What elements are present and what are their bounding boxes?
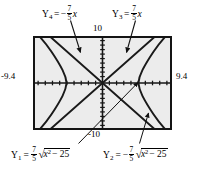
y4-denominator: 5 [67,13,73,22]
graph-plot [35,38,170,128]
y4-fraction: 75 [67,5,73,21]
y3-lhs: Y3 [112,9,122,19]
y4-numerator: 7 [67,5,73,13]
y3-subscript: 3 [119,12,123,20]
y4-subscript: 4 [49,12,53,20]
equation-label-y2: Y2=−75√x2− 25 [103,146,168,162]
y2-equals: = [115,150,120,160]
equation-label-y4: Y4=−75x [42,5,77,21]
y1-radical: √x2− 25 [37,149,70,160]
y2-sign: − [123,150,128,160]
y1-lhs: Y1 [11,150,21,160]
xmin-label: -9.4 [1,72,15,81]
y2-denominator: 5 [129,154,135,163]
hyperbola-figure: 10 -10 -9.4 9.4 Y4=−75x Y3=75x Y1=75√x2−… [0,0,202,173]
y1-radicand: x2− 25 [44,148,71,159]
y1-numerator: 7 [31,146,37,154]
y3-variable: x [137,9,141,19]
calculator-screen [33,36,172,130]
xmax-label: 9.4 [176,72,187,81]
y4-sign: − [61,9,66,19]
y2-subscript: 2 [110,153,114,161]
hyperbola-right-upper [138,38,164,83]
y4-equals: = [54,9,59,19]
hyperbola-left-upper [40,38,66,83]
y4-variable: x [73,9,77,19]
y4-lhs: Y4 [42,9,52,19]
y1-equals: = [23,150,28,160]
y2-radical: √x2− 25 [135,149,168,160]
y1-subscript: 1 [18,153,22,161]
y2-radicand: x2− 25 [141,148,168,159]
hyperbola-right-lower [138,83,164,128]
ymin-label: -10 [88,130,100,139]
equation-label-y1: Y1=75√x2− 25 [11,146,70,162]
equation-label-y3: Y3=75x [112,5,142,21]
y2-numerator: 7 [129,146,135,154]
hyperbola-left-lower [40,83,66,128]
y1-fraction: 75 [31,146,37,162]
y2-lhs: Y2 [103,150,113,160]
y1-denominator: 5 [31,154,37,163]
y3-equals: = [124,9,129,19]
y2-fraction: 75 [129,146,135,162]
ymax-label: 10 [93,24,102,33]
